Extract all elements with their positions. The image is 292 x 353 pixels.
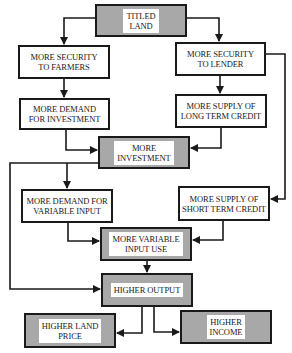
node-higher-land-price: HIGHER LAND PRICE [24,313,116,348]
edge-investment-to-output [10,163,100,289]
node-higher-income: HIGHER INCOME [180,310,272,344]
node-more-supply-short-term-credit: MORE SUPPLY OF SHORT TERM CREDIT [178,186,270,221]
edge-longcredit-to-investment [191,128,221,148]
node-label: MORE DEMAND FOR INVESTMENT [29,104,101,124]
node-label: HIGHER LAND PRICE [39,319,102,343]
edge-titled-to-farmers [64,18,95,44]
node-more-investment: MORE INVESTMENT [98,136,190,169]
node-label: MORE INVESTMENT [114,141,173,165]
edge-shortcredit-to-use [193,221,223,240]
edge-demand-to-investment [66,130,97,150]
node-more-demand-variable-input: MORE DEMAND FOR VARIABLE INPUT [21,189,113,223]
node-more-security-to-lender: MORE SECURITY TO LENDER [175,42,266,76]
node-label: HIGHER OUTPUT [111,283,183,297]
node-label: MORE VARIABLE INPUT USE [109,232,182,256]
node-higher-output: HIGHER OUTPUT [101,273,193,307]
edge-output-to-income [154,307,179,332]
node-label: HIGHER INCOME [207,315,246,339]
edge-variableinput-to-use [68,223,99,241]
node-more-supply-long-term-credit: MORE SUPPLY OF LONG TERM CREDIT [175,94,267,128]
node-more-demand-for-investment: MORE DEMAND FOR INVESTMENT [19,98,110,130]
node-label: MORE SUPPLY OF SHORT TERM CREDIT [182,194,266,214]
edge-titled-to-lender [187,18,219,41]
node-titled-land: TITLED LAND [95,4,187,37]
node-label: MORE SUPPLY OF LONG TERM CREDIT [181,101,261,121]
edge-output-to-landprice [117,307,142,333]
node-more-security-to-farmers: MORE SECURITY TO FARMERS [18,45,110,79]
node-label: MORE SECURITY TO LENDER [187,49,254,69]
node-more-variable-input-use: MORE VARIABLE INPUT USE [100,227,192,261]
node-label: TITLED LAND [123,9,158,33]
node-label: MORE DEMAND FOR VARIABLE INPUT [26,196,107,216]
edge-lender-to-shortcredit [266,54,285,199]
node-label: MORE SECURITY TO FARMERS [31,52,98,72]
